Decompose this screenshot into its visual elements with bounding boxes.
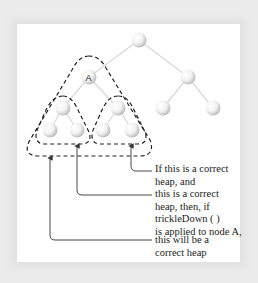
caption-line: this will be a [155, 234, 209, 247]
node-right [181, 70, 196, 85]
node-root [132, 33, 147, 48]
arrow-whole-heap [50, 158, 152, 240]
arrow-left-subheap [77, 146, 152, 195]
caption-line: correct heap [155, 247, 209, 260]
node-a-left [56, 101, 71, 116]
caption-right-subheap: If this is a correct heap, and [155, 163, 228, 188]
node-right-left [156, 101, 171, 116]
caption-line: trickleDown ( ) [155, 213, 242, 226]
node-right-right [206, 101, 221, 116]
caption-left-subheap: this is a correct heap, then, if trickle… [155, 188, 242, 238]
caption-line: heap, then, if [155, 201, 242, 214]
caption-line: this is a correct [155, 188, 242, 201]
tree-edges [50, 40, 213, 130]
node-leaf-4 [125, 123, 140, 138]
caption-line: If this is a correct [155, 163, 228, 176]
node-a-label: A [86, 73, 92, 83]
caption-line: heap, and [155, 176, 228, 189]
node-leaf-1 [43, 123, 58, 138]
node-leaf-3 [96, 123, 111, 138]
callout-arrows [50, 146, 152, 240]
arrow-right-subheap [131, 146, 152, 171]
node-leaf-2 [70, 123, 85, 138]
heap-tree-diagram: A [0, 0, 258, 283]
node-a-right [111, 101, 126, 116]
caption-whole-heap: this will be a correct heap [155, 234, 209, 259]
